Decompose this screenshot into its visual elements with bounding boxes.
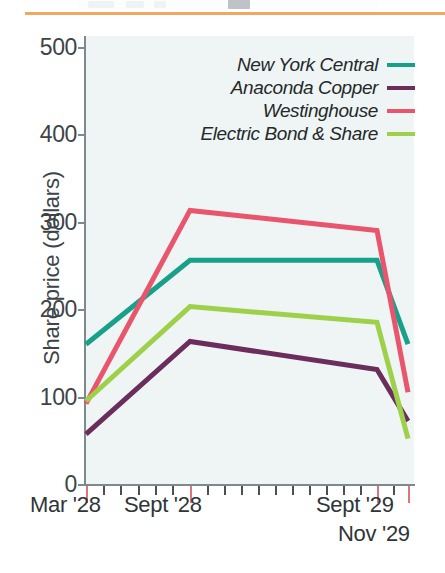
series-line-new-york-central: [86, 260, 408, 344]
legend-label: Westinghouse: [263, 100, 378, 122]
legend-swatch-icon: [387, 86, 415, 90]
chart-legend: New York Central Anaconda Copper Westing…: [205, 54, 415, 146]
series-line-electric-bond-share: [86, 307, 408, 439]
legend-label: Electric Bond & Share: [201, 123, 378, 145]
legend-swatch-icon: [387, 132, 415, 136]
legend-swatch-icon: [387, 63, 415, 67]
legend-item-new-york-central: New York Central: [205, 54, 415, 76]
legend-label: New York Central: [237, 54, 378, 76]
legend-item-electric-bond-share: Electric Bond & Share: [205, 123, 415, 145]
legend-swatch-icon: [387, 109, 415, 113]
legend-item-anaconda-copper: Anaconda Copper: [205, 77, 415, 99]
legend-item-westinghouse: Westinghouse: [205, 100, 415, 122]
legend-label: Anaconda Copper: [231, 77, 378, 99]
chart-figure: 500 400 300 200 100 0 Share price (dolla…: [0, 0, 445, 573]
